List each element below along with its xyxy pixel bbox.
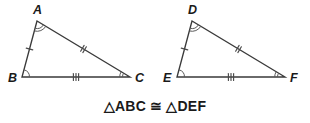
vertex-label-D: D	[188, 3, 197, 17]
angle-arc-F	[275, 72, 276, 77]
congruence-statement: △ABC ≅ △DEF	[0, 98, 310, 114]
vertex-label-B: B	[8, 71, 17, 85]
angle-arc-C	[120, 72, 121, 77]
angle-arc-E	[179, 70, 185, 77]
triangle-abc: ABC	[8, 3, 145, 85]
triangle-def: DEF	[163, 3, 298, 85]
angle-arc-B	[24, 70, 30, 77]
triangle-abc-outline	[22, 21, 130, 77]
vertex-label-F: F	[290, 71, 298, 85]
triangle-def-outline	[177, 21, 285, 77]
vertex-label-E: E	[163, 71, 172, 85]
vertex-label-C: C	[135, 71, 145, 85]
congruent-triangles-figure: ABCDEF △ABC ≅ △DEF	[0, 0, 310, 123]
vertex-label-A: A	[32, 3, 42, 17]
